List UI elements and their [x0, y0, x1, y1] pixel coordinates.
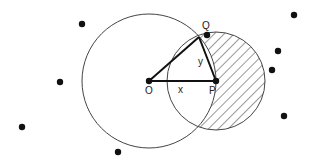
- dot: [115, 149, 121, 155]
- point-O: [146, 78, 152, 84]
- label-P: P: [209, 85, 216, 96]
- dot: [275, 48, 281, 54]
- label-O: O: [145, 85, 153, 96]
- dot: [19, 124, 25, 130]
- point-Q: [204, 32, 210, 38]
- dot: [291, 12, 297, 18]
- dot: [57, 79, 63, 85]
- dot: [269, 67, 275, 73]
- point-P: [213, 78, 219, 84]
- label-x: x: [178, 84, 183, 95]
- label-Q: Q: [202, 20, 210, 31]
- dot: [79, 21, 85, 27]
- geometry-diagram: O P Q x y: [0, 0, 313, 162]
- dot: [281, 113, 287, 119]
- diagram-svg: O P Q x y: [0, 0, 313, 162]
- label-y: y: [198, 56, 203, 67]
